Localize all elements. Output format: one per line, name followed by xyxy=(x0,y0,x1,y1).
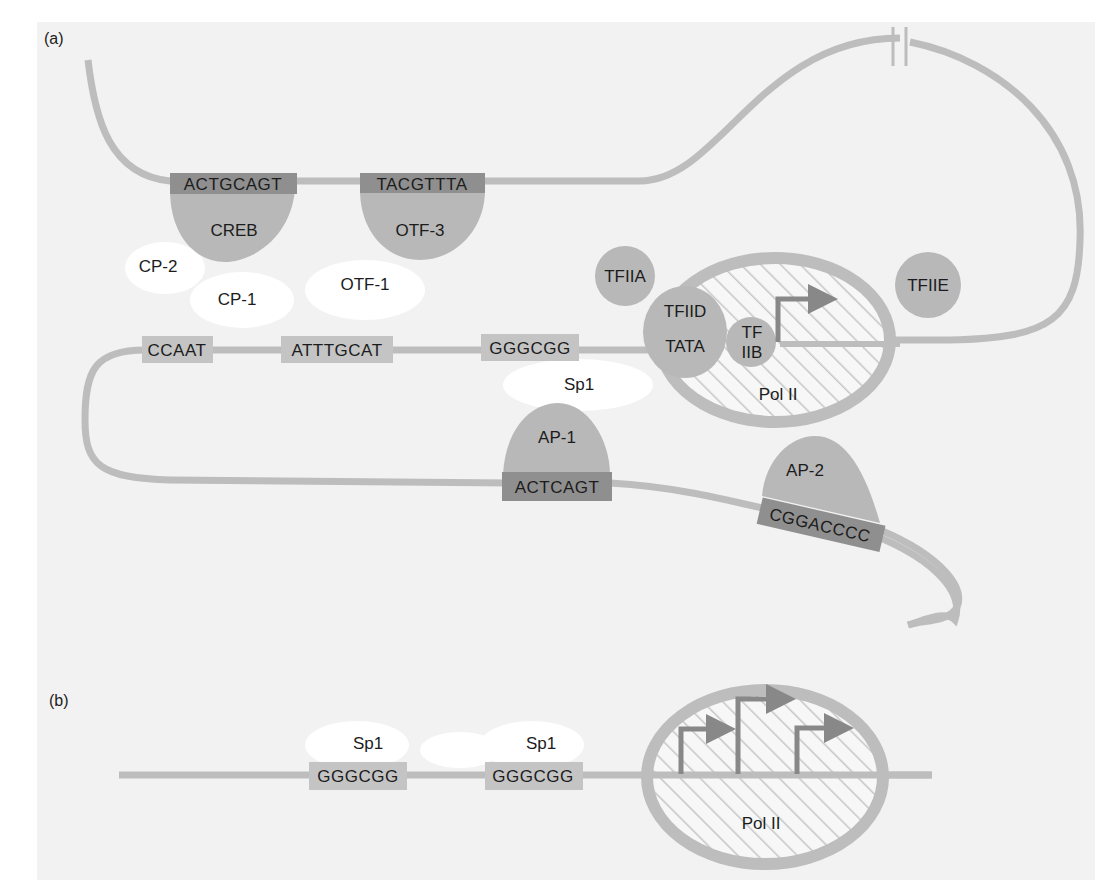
svg-text:CCAAT: CCAAT xyxy=(148,341,207,360)
ap2-label: AP-2 xyxy=(786,461,824,480)
tfiib-label-1: TF xyxy=(742,323,763,342)
tfiid-protein xyxy=(643,286,727,378)
creb-label: CREB xyxy=(210,221,257,240)
panel-b-label: (b) xyxy=(49,692,69,709)
tata-label: TATA xyxy=(665,337,705,356)
gc-box-site: GGGCGG xyxy=(481,334,579,361)
octamer-site: ATTTGCAT xyxy=(281,336,393,363)
otf1-label: OTF-1 xyxy=(340,275,389,294)
sp1-label: Sp1 xyxy=(564,375,594,394)
otf3-label: OTF-3 xyxy=(395,221,444,240)
ap1-site-sequence: ACTCAGT xyxy=(515,478,600,497)
svg-text:ATTTGCAT: ATTTGCAT xyxy=(291,341,382,360)
otf3-site-sequence: TACGTTTA xyxy=(376,175,467,194)
pol2-label-a: Pol II xyxy=(759,385,798,404)
panel-a-label: (a) xyxy=(44,30,64,47)
transcription-factor-diagram: (a) ACTGCAGT CREB TACGTTTA OTF-3 CP-2 CP… xyxy=(0,0,1111,894)
ap1-label: AP-1 xyxy=(538,428,576,447)
pol2-label-b: Pol II xyxy=(742,814,781,833)
tfiib-label-2: IIB xyxy=(742,343,763,362)
svg-text:Sp1: Sp1 xyxy=(353,734,383,753)
tfiie-label: TFIIE xyxy=(907,276,949,295)
svg-text:GGGCGG: GGGCGG xyxy=(317,767,398,786)
ccaat-site: CCAAT xyxy=(142,336,213,363)
cp1-label: CP-1 xyxy=(218,290,257,309)
creb-site-sequence: ACTGCAGT xyxy=(184,175,282,194)
svg-text:GGGCGG: GGGCGG xyxy=(489,339,570,358)
svg-text:Sp1: Sp1 xyxy=(526,734,556,753)
svg-text:GGGCGG: GGGCGG xyxy=(492,767,573,786)
cp2-label: CP-2 xyxy=(139,257,178,276)
tfiid-label: TFIID xyxy=(664,302,707,321)
tfiia-label: TFIIA xyxy=(604,267,646,286)
